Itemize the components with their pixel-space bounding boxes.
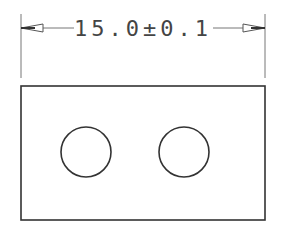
part-outline — [21, 86, 265, 220]
arrowhead-right-icon — [243, 24, 265, 32]
arrowhead-left-icon — [21, 24, 43, 32]
hole-right — [159, 127, 209, 177]
hole-left — [61, 127, 111, 177]
dimension-label: 15.0±0.1 — [74, 16, 212, 41]
technical-drawing: 15.0±0.1 — [0, 0, 283, 230]
